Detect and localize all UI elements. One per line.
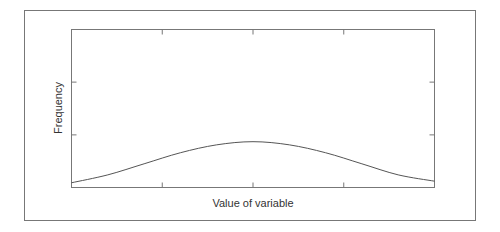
plot-area (72, 30, 435, 188)
x-axis-label: Value of variable (212, 197, 293, 209)
chart: Value of variable Frequency (0, 0, 500, 232)
y-axis-label: Frequency (52, 82, 64, 134)
